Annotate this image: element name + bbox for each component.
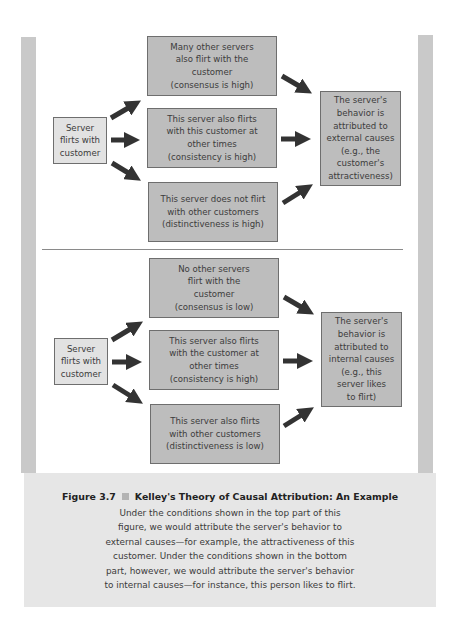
top-source-box: Server flirts with customer xyxy=(53,117,107,164)
figure-number: Figure 3.7 xyxy=(62,491,116,502)
top-distinctiveness-box: This server does not flirt with other cu… xyxy=(148,182,278,242)
top-consistency-box: This server also flirts with this custom… xyxy=(147,108,277,168)
square-bullet-icon xyxy=(122,493,129,500)
bottom-result-box: The server's behavior is attributed to i… xyxy=(321,312,402,407)
bottom-consensus-box: No other servers flirt with the customer… xyxy=(149,258,279,318)
figure-caption-body: Under the conditions shown in the top pa… xyxy=(24,506,436,592)
top-result-box: The server's behavior is attributed to e… xyxy=(320,91,401,186)
right-frame-bar xyxy=(418,35,433,473)
bottom-consistency-box: This server also flirts with the custome… xyxy=(149,330,279,390)
figure-title: Kelley's Theory of Causal Attribution: A… xyxy=(135,491,398,502)
left-frame-bar xyxy=(21,37,36,473)
top-consensus-box: Many other servers also flirt with the c… xyxy=(147,36,277,96)
section-divider xyxy=(42,249,403,250)
figure-caption-title: Figure 3.7Kelley's Theory of Causal Attr… xyxy=(24,491,436,502)
bottom-source-box: Server flirts with customer xyxy=(54,338,108,385)
bottom-distinctiveness-box: This server also flirts with other custo… xyxy=(150,404,280,464)
